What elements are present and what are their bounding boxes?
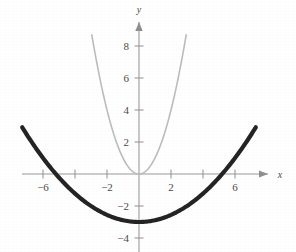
y-tick-label: −4 (117, 232, 129, 244)
x-tick-label: −6 (37, 181, 49, 193)
y-axis-tick-labels: −4−22468 (117, 40, 129, 244)
y-tick-label: 2 (124, 136, 130, 148)
y-axis-arrowhead (135, 22, 142, 31)
y-tick-label: 8 (124, 40, 130, 52)
x-tick-label: 6 (232, 181, 238, 193)
axes-group (22, 22, 268, 252)
y-axis-label: y (136, 4, 142, 15)
y-tick-label: 6 (124, 72, 130, 84)
x-axis-arrowhead (259, 171, 268, 178)
parabola-figure: −6−226 −4−22468 x y (0, 0, 296, 252)
x-tick-label: 2 (168, 181, 174, 193)
y-tick-label: 4 (124, 104, 130, 116)
x-axis-label: x (277, 169, 283, 180)
y-tick-label: −2 (117, 200, 129, 212)
plot-canvas: −6−226 −4−22468 x y (0, 0, 296, 252)
x-tick-label: −2 (101, 181, 113, 193)
